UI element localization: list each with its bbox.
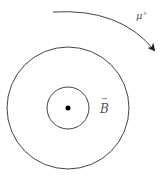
center-dot bbox=[66, 106, 71, 111]
svg-text:B: B bbox=[99, 102, 109, 116]
particle-label: μ+ bbox=[136, 9, 148, 21]
svg-text:→: → bbox=[101, 95, 107, 103]
field-label: B → bbox=[99, 95, 109, 116]
magnetic-field-diagram: μ+ B → bbox=[0, 0, 161, 177]
